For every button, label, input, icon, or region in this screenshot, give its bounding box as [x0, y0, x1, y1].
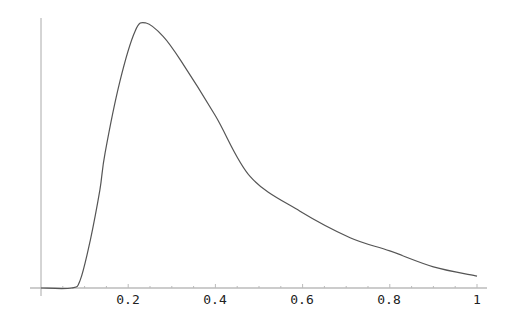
x-tick-label: 0.4	[203, 292, 227, 307]
axes	[30, 18, 487, 296]
chart-plot: 0.2 0.4 0.6 0.8 1	[0, 0, 512, 324]
x-tick-label: 1	[473, 292, 481, 307]
x-tick-label: 0.2	[116, 292, 139, 307]
minor-ticks	[63, 284, 477, 288]
x-tick-label: 0.8	[377, 292, 400, 307]
x-tick-label: 0.6	[290, 292, 313, 307]
data-curve	[41, 22, 477, 288]
x-tick-labels: 0.2 0.4 0.6 0.8 1	[116, 292, 481, 307]
